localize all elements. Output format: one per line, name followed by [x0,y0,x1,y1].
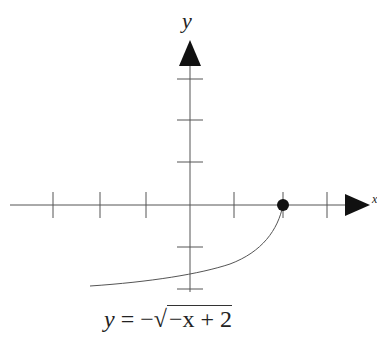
eq-mid: = −√ [115,306,167,332]
endpoint-dot [277,199,289,211]
equation-label: y = −√−x + 2 [104,306,232,333]
x-axis-label: x [372,192,377,207]
eq-radicand: −x + 2 [167,305,232,332]
x-arrow-icon [345,194,370,216]
y-arrow-icon [179,40,201,66]
y-axis-label: y [182,8,192,34]
function-curve [90,205,283,286]
eq-lhs: y [104,306,115,332]
